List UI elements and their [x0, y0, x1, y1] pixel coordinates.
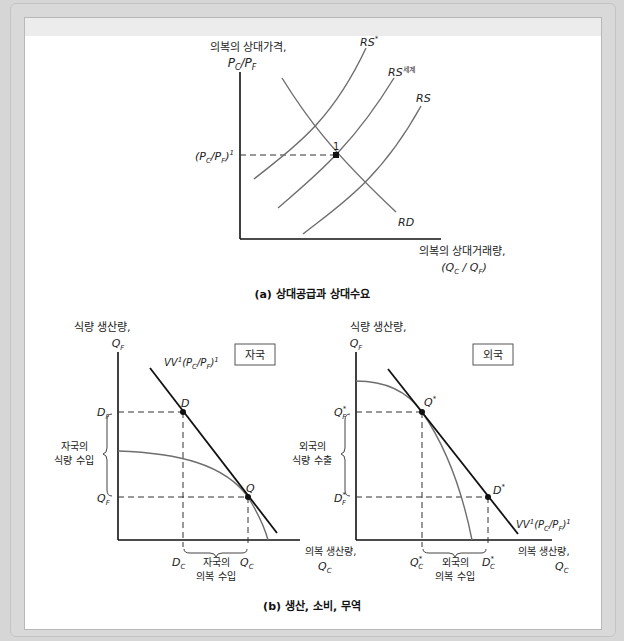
foreign-budget-line-label: VV1(PC/PF)1	[516, 518, 571, 533]
foreign-title: 외국	[483, 349, 503, 362]
foreign-y-bracket-label-1: 외국의	[299, 441, 326, 452]
panel-a-x-axis-label: 의복의 상대거래량,	[419, 245, 506, 258]
foreign-x-bracket-label-1: 외국의	[442, 557, 469, 568]
equilibrium-point	[333, 152, 339, 158]
panel-b-foreign: 식량 생산량, QF 외국 VV1(PC/PF)1 Q* D* Q*F D*F …	[292, 321, 570, 582]
home-y-bracket-label-1: 자국의	[61, 441, 88, 452]
foreign-consumption-point	[485, 494, 491, 500]
home-consumption-point-label: D	[181, 397, 189, 410]
foreign-x-axis-symbol: QC	[555, 560, 569, 575]
foreign-budget-line	[388, 369, 518, 534]
foreign-qc-star-label: Q*C	[410, 555, 423, 571]
home-budget-line	[150, 368, 277, 533]
rd-label: RD	[398, 216, 414, 229]
foreign-x-axis-label: 의복 생산량,	[518, 546, 569, 557]
rs-star-label: RS*	[360, 35, 379, 49]
foreign-dc-star-label: D*C	[482, 555, 495, 571]
foreign-y-bracket-label-2: 식량 수출	[292, 455, 331, 466]
foreign-production-point	[419, 409, 425, 415]
home-y-axis-label: 식량 생산량,	[74, 321, 131, 334]
home-budget-line-label: VV1(PC/PF)1	[164, 356, 219, 371]
rs-label: RS	[416, 92, 431, 105]
foreign-y-axis-label: 식량 생산량,	[350, 321, 407, 334]
home-df-label: DF	[97, 406, 110, 421]
panel-a-x-axis-symbol: (QC / QF)	[441, 261, 487, 276]
home-y-axis-symbol: QF	[112, 337, 126, 352]
equilibrium-point-label: 1	[333, 141, 339, 152]
home-x-axis-label: 의복 생산량,	[305, 546, 356, 557]
panel-a-caption: (a) 상대공급과 상대수요	[254, 287, 369, 301]
home-dc-label: DC	[172, 556, 185, 571]
home-x-axis-symbol: QC	[318, 560, 332, 575]
home-qc-label: QC	[240, 556, 254, 571]
panel-a-price-level-label: (PC/PF)1	[195, 149, 234, 165]
foreign-x-bracket-label-2: 의복 수입	[435, 570, 474, 582]
foreign-production-point-label: Q*	[424, 395, 437, 409]
home-x-bracket	[184, 549, 247, 557]
home-production-point-label: Q	[246, 482, 255, 495]
panel-a-y-axis-label: 의복의 상대가격,	[210, 41, 287, 54]
panel-b-caption: (b) 생산, 소비, 무역	[263, 599, 361, 613]
foreign-consumption-point-label: D*	[493, 483, 505, 497]
home-y-bracket-label-2: 식량 수입	[54, 454, 93, 466]
foreign-ppf-curve	[356, 381, 472, 540]
home-title: 자국	[245, 349, 265, 362]
home-y-bracket	[103, 414, 112, 496]
rs-star-curve	[254, 48, 366, 179]
rs-world-label: RS세계	[388, 65, 415, 79]
foreign-x-bracket	[423, 549, 486, 557]
panel-a-relative-supply-demand: 의복의 상대가격, PC/PF (PC/PF)1 RS* RS세계 RS RD …	[195, 35, 506, 301]
home-x-bracket-label-2: 의복 수입	[196, 570, 235, 582]
home-x-bracket-label-1: 자국의	[203, 557, 230, 568]
panel-a-y-axis-symbol: PC/PF	[228, 56, 257, 72]
foreign-y-axis-symbol: QF	[350, 337, 364, 352]
foreign-y-bracket	[341, 414, 350, 496]
figure-svg: 의복의 상대가격, PC/PF (PC/PF)1 RS* RS세계 RS RD …	[0, 0, 624, 641]
